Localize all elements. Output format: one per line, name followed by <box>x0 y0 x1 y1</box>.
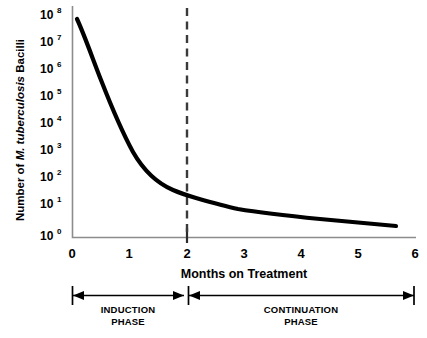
y-tick-exp-1: 1 <box>57 195 62 204</box>
y-axis-title-prefix: Number of <box>14 160 26 221</box>
induction-phase-label-line2: PHASE <box>111 316 145 327</box>
continuation-phase-label-line2: PHASE <box>284 316 318 327</box>
x-tick-label-2: 2 <box>183 246 190 261</box>
y-tick-base-5: 10 <box>40 89 54 103</box>
y-tick-exp-3: 3 <box>57 141 62 150</box>
tb-bacilli-decay-chart: Number of M. tuberculosis Bacilli 10 8 1… <box>0 0 427 338</box>
continuation-phase-label-line1: CONTINUATION <box>264 304 339 315</box>
y-tick-exp-2: 2 <box>57 168 62 177</box>
svg-text:Number of M. tuberculosis Baci: Number of M. tuberculosis Bacilli <box>14 39 26 221</box>
x-tick-label-5: 5 <box>354 246 361 261</box>
x-tick-label-6: 6 <box>411 246 418 261</box>
y-tick-base-7: 10 <box>40 35 54 49</box>
y-tick-base-4: 10 <box>40 116 54 130</box>
y-tick-base-6: 10 <box>40 62 54 76</box>
y-tick-exp-7: 7 <box>57 33 62 42</box>
y-tick-base-1: 10 <box>40 197 54 211</box>
y-tick-base-8: 10 <box>40 8 54 22</box>
x-tick-label-4: 4 <box>297 246 305 261</box>
x-axis-title: Months on Treatment <box>181 267 308 281</box>
y-axis-title-species: M. tuberculosis <box>14 76 26 160</box>
y-tick-exp-4: 4 <box>57 114 62 123</box>
y-tick-base-2: 10 <box>40 170 54 184</box>
chart-background <box>0 0 427 338</box>
y-tick-base-0: 10 <box>40 229 54 243</box>
y-tick-exp-8: 8 <box>57 6 62 15</box>
x-tick-label-1: 1 <box>125 246 132 261</box>
y-axis-title-suffix: Bacilli <box>14 39 26 76</box>
induction-phase-label-line1: INDUCTION <box>101 304 156 315</box>
y-tick-exp-0: 0 <box>57 227 62 236</box>
chart-canvas: Number of M. tuberculosis Bacilli 10 8 1… <box>0 0 427 338</box>
y-tick-exp-5: 5 <box>57 87 62 96</box>
y-tick-exp-6: 6 <box>57 60 62 69</box>
y-axis-title: Number of M. tuberculosis Bacilli <box>14 39 26 221</box>
y-tick-base-3: 10 <box>40 143 54 157</box>
x-tick-label-3: 3 <box>240 246 247 261</box>
x-tick-label-0: 0 <box>68 246 75 261</box>
